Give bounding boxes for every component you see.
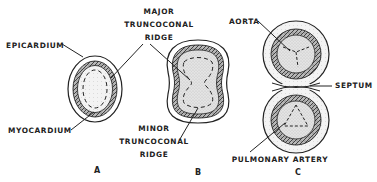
panel-label-b: B [195,168,201,177]
label-minor-ridge-line3: RIDGE [140,150,169,159]
leader-epicardium [62,44,83,57]
label-aorta: AORTA [229,17,260,26]
label-major-ridge-line2: TRUNCOCONAL [124,20,194,29]
panel-a-vessel [68,56,122,122]
panel-a: EPICARDIUM MYOCARDIUM A [6,41,122,175]
pulmonary-lumen [277,101,315,139]
label-myocardium: MYOCARDIUM [8,126,72,135]
label-septum: SEPTUM [335,81,373,90]
panel-b: MAJOR TRUNCOCONAL RIDGE MINOR TRUNCOCONA… [111,7,229,177]
panel-label-c: C [295,168,301,177]
panel-c: AORTA SEPTUM PULMONARY ARTERY C [229,17,373,177]
aorta-vessel [263,21,329,87]
panel-b-vessel [167,40,229,123]
panel-label-a: A [94,166,101,175]
truncoconal-development-diagram: EPICARDIUM MYOCARDIUM A MAJOR TRUNCOCONA… [0,0,377,182]
lumen [177,50,218,114]
label-major-ridge-line3: RIDGE [145,33,174,42]
pulmonary-artery-vessel [263,87,329,153]
leader-major-ridge-a [111,44,143,78]
label-minor-ridge-line2: TRUNCOCONAL [119,137,189,146]
label-minor-ridge-line1: MINOR [138,124,169,133]
label-epicardium: EPICARDIUM [6,41,64,50]
label-major-ridge-line1: MAJOR [144,7,175,16]
label-pulmonary-artery: PULMONARY ARTERY [232,155,328,164]
